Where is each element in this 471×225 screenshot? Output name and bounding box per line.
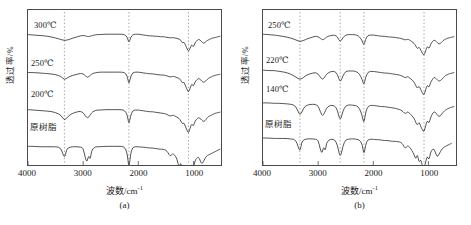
panel-b-x-tick-labels: 4000300020001000: [262, 168, 457, 181]
panel-b-spectra-svg: [263, 10, 456, 165]
trace-label: 140℃: [266, 84, 289, 94]
ftir-figure: 透过率/% 300℃250℃200℃原树脂 4000300020001000 波…: [0, 0, 471, 225]
trace-label: 200℃: [31, 89, 54, 99]
panel-a-y-axis-label: 透过率/%: [3, 29, 17, 101]
x-tick-label: 4000: [253, 168, 271, 178]
panel-b-caption: (b): [262, 200, 457, 210]
spectrum-trace: [263, 34, 454, 55]
trace-label: 250℃: [31, 58, 54, 68]
panel-b-plot-area: 250℃220℃140℃原树脂: [262, 9, 457, 166]
panel-a-plot-area: 300℃250℃200℃原树脂: [27, 9, 222, 166]
panel-b-x-axis-label-text: 波数/cm: [341, 186, 373, 196]
x-tick-label: 2000: [364, 168, 382, 178]
panel-a-spectra-svg: [28, 10, 221, 165]
panel-a-x-axis-label-sup: -1: [138, 184, 143, 191]
spectrum-trace: [28, 34, 220, 51]
x-tick-label: 2000: [129, 168, 147, 178]
trace-label: 原树脂: [265, 117, 292, 129]
panel-b-x-axis-label-sup: -1: [373, 184, 378, 191]
trace-label: 250℃: [268, 20, 291, 30]
x-tick-label: 4000: [18, 168, 36, 178]
panel-a-caption: (a): [27, 200, 222, 210]
panel-b: 透过率/% 250℃220℃140℃原树脂 4000300020001000 波…: [235, 0, 471, 225]
panel-a: 透过率/% 300℃250℃200℃原树脂 4000300020001000 波…: [0, 0, 236, 225]
panel-b-y-axis-label: 透过率/%: [238, 29, 252, 101]
x-tick-label: 1000: [185, 168, 203, 178]
spectrum-trace: [263, 70, 454, 94]
spectrum-trace: [28, 72, 220, 92]
x-tick-label: 1000: [420, 168, 438, 178]
trace-label: 300℃: [34, 20, 57, 30]
x-tick-label: 3000: [309, 168, 327, 178]
spectrum-trace: [28, 146, 220, 165]
panel-a-x-tick-labels: 4000300020001000: [27, 168, 222, 181]
panel-b-x-axis-label: 波数/cm-1: [262, 184, 457, 197]
panel-a-x-axis-label-text: 波数/cm: [106, 186, 138, 196]
trace-label: 220℃: [266, 55, 289, 65]
panel-a-x-axis-label: 波数/cm-1: [27, 184, 222, 197]
trace-label: 原树脂: [30, 120, 57, 132]
spectrum-trace: [263, 138, 451, 165]
x-tick-label: 3000: [74, 168, 92, 178]
